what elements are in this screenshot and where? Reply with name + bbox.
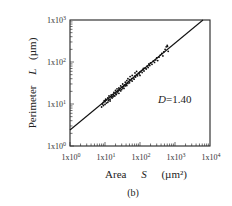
x-axis-title-unit: (µm²)	[161, 168, 187, 181]
data-point	[101, 106, 103, 108]
axis-minor-ticks	[70, 22, 208, 146]
data-point	[129, 76, 131, 78]
annotation-symbol: D	[157, 93, 166, 105]
data-point	[167, 46, 169, 48]
data-point	[131, 80, 133, 82]
data-point	[103, 105, 105, 107]
y-tick-label: 1x101	[47, 99, 66, 109]
plot-frame	[70, 20, 210, 146]
x-axis-title: Area S (µm²)	[105, 168, 187, 181]
data-point	[114, 95, 116, 97]
y-tick-label: 1x100	[47, 141, 66, 151]
x-tick-label: 1x101	[97, 152, 116, 162]
data-point	[134, 72, 136, 74]
data-point	[139, 75, 141, 77]
data-point	[143, 70, 145, 72]
data-point	[115, 90, 117, 92]
y-axis-tick-labels: 1x1001x1011x1021x103	[47, 15, 66, 151]
scatter-chart: 1x1001x1011x1021x103 1x1001x1011x1021x10…	[0, 0, 232, 206]
data-point	[107, 101, 109, 103]
data-point	[136, 70, 138, 72]
y-tick-label: 1x103	[47, 15, 66, 25]
x-tick-label: 1x103	[167, 152, 186, 162]
y-axis-title-unit: (µm)	[26, 37, 39, 60]
data-point	[116, 88, 118, 90]
data-point	[129, 82, 131, 84]
data-point	[126, 85, 128, 87]
y-axis-title-symbol: L	[26, 69, 38, 76]
data-point	[147, 67, 149, 69]
x-tick-label: 1x102	[132, 152, 151, 162]
data-point	[115, 94, 117, 96]
x-axis-title-symbol: S	[141, 168, 147, 180]
annotation-value: =1.40	[166, 93, 192, 105]
x-axis-title-name: Area	[105, 168, 126, 180]
x-tick-label: 1x104	[202, 152, 221, 162]
panel-label: (b)	[127, 187, 139, 199]
data-point	[157, 60, 159, 62]
data-point	[104, 104, 106, 106]
data-point	[131, 75, 133, 77]
data-point	[118, 92, 120, 94]
y-axis-title-name: Perimeter	[26, 85, 38, 128]
data-point	[122, 83, 124, 85]
data-point	[124, 81, 126, 83]
data-point	[109, 100, 111, 102]
data-point	[123, 88, 125, 90]
x-tick-label: 1x100	[62, 152, 81, 162]
data-point	[127, 78, 129, 80]
data-point	[145, 68, 147, 70]
data-point	[121, 89, 123, 91]
data-point	[141, 72, 143, 74]
data-point	[162, 55, 164, 57]
data-point	[164, 49, 166, 51]
data-point	[126, 80, 128, 82]
data-point	[167, 50, 169, 52]
fractal-dimension-annotation: D=1.40	[157, 93, 192, 105]
data-point	[109, 98, 111, 100]
y-tick-label: 1x102	[47, 57, 66, 67]
data-point	[154, 62, 156, 64]
data-point	[133, 78, 135, 80]
y-axis-title: Perimeter L (µm)	[26, 37, 39, 128]
data-point	[151, 63, 153, 65]
x-axis-tick-labels: 1x1001x1011x1021x1031x104	[62, 152, 221, 162]
fit-line	[70, 20, 203, 130]
